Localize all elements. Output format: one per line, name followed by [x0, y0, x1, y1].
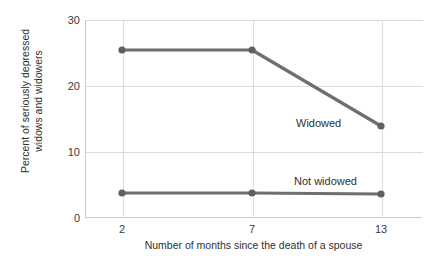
x-tick-13: 13 [361, 224, 401, 235]
series-label-widowed: Widowed [296, 118, 341, 129]
y-axis-title: Percent of seriously depressed widows an… [19, 6, 45, 196]
chart-screenshot: 30 20 10 0 2 7 13 Percent of seriously d… [0, 0, 443, 265]
x-tick-7: 7 [232, 224, 272, 235]
x-axis-tick-labels: 2 7 13 [0, 0, 443, 265]
y-axis-title-line-2: widows and widowers [32, 6, 45, 196]
y-axis-title-line-1: Percent of seriously depressed [19, 6, 32, 196]
x-axis-title: Number of months since the death of a sp… [85, 239, 422, 252]
x-tick-2: 2 [102, 224, 142, 235]
series-label-not-widowed: Not widowed [294, 176, 357, 187]
